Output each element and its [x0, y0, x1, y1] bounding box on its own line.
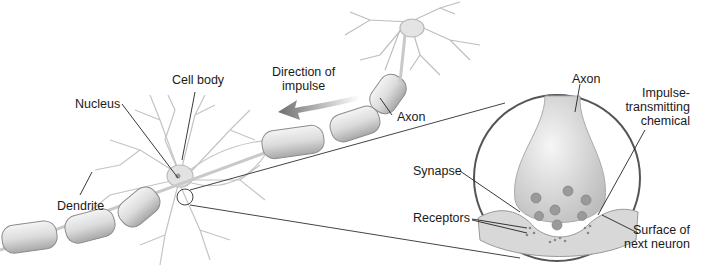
label-synapse: Synapse	[413, 164, 462, 178]
label-dendrite: Dendrite	[57, 199, 104, 213]
label-impulse-transmitting-chemical: Impulse- transmitting chemical	[610, 86, 690, 128]
label-nucleus: Nucleus	[75, 97, 120, 111]
label-cell-body: Cell body	[172, 73, 224, 87]
label-direction-of-impulse: Direction of impulse	[272, 65, 335, 93]
label-receptors: Receptors	[413, 211, 470, 225]
upper-neuron	[345, 2, 480, 75]
label-axon-inset: Axon	[572, 72, 601, 86]
axon-myelin-segments	[0, 35, 411, 255]
label-surface-of-next-neuron: Surface of next neuron	[610, 223, 690, 251]
label-axon-main: Axon	[397, 110, 426, 124]
